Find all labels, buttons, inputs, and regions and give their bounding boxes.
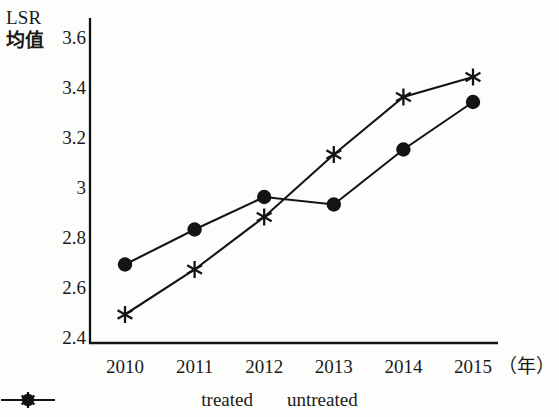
plot-area bbox=[0, 0, 559, 417]
line-untreated bbox=[125, 102, 473, 265]
axis-lines bbox=[90, 18, 498, 343]
legend-label-treated: treated bbox=[201, 390, 253, 409]
data-point-untreated-2015 bbox=[466, 95, 480, 109]
series-untreated bbox=[118, 95, 480, 272]
data-point-treated-2011 bbox=[187, 261, 202, 278]
data-point-untreated-2014 bbox=[396, 142, 410, 156]
legend-item-treated: treated bbox=[201, 390, 253, 409]
legend-item-untreated: untreated bbox=[287, 390, 358, 409]
circle-icon bbox=[0, 390, 56, 410]
chart-legend: treated untreated bbox=[0, 390, 559, 409]
data-point-treated-2015 bbox=[466, 69, 481, 86]
legend-label-untreated: untreated bbox=[287, 390, 358, 409]
series-treated bbox=[118, 69, 481, 324]
data-point-untreated-2010 bbox=[118, 257, 132, 271]
data-point-treated-2014 bbox=[396, 89, 411, 106]
data-point-untreated-2012 bbox=[257, 190, 271, 204]
data-point-treated-2010 bbox=[118, 306, 133, 323]
line-treated bbox=[125, 77, 473, 315]
data-point-untreated-2011 bbox=[187, 222, 201, 236]
chart-container: LSR均值 2.42.62.833.23.43.6 20102011201220… bbox=[0, 0, 559, 417]
data-point-untreated-2013 bbox=[327, 197, 341, 211]
